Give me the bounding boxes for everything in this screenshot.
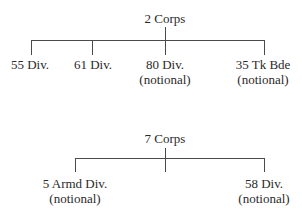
child-node-61-div: 61 Div. bbox=[74, 57, 112, 72]
root-node-7-corps: 7 Corps bbox=[145, 131, 186, 146]
node-note: (notional) bbox=[236, 72, 291, 87]
connector-horizontal-bar bbox=[75, 158, 265, 159]
node-label: 58 Div. bbox=[238, 176, 289, 191]
node-label: 35 Tk Bde bbox=[236, 57, 291, 72]
connector-child-2 bbox=[92, 40, 93, 55]
connector-child-2 bbox=[264, 158, 265, 172]
child-node-55-div: 55 Div. bbox=[11, 57, 49, 72]
connector-child-4 bbox=[264, 40, 265, 55]
node-note: (notional) bbox=[238, 191, 289, 206]
connector-child-1 bbox=[31, 40, 32, 55]
node-label: 2 Corps bbox=[145, 11, 186, 26]
node-label: 55 Div. bbox=[11, 57, 49, 72]
root-node-2-corps: 2 Corps bbox=[145, 11, 186, 26]
node-label: 5 Armd Div. bbox=[43, 176, 108, 191]
child-node-80-div: 80 Div. (notional) bbox=[139, 57, 190, 87]
node-label: 80 Div. bbox=[139, 57, 190, 72]
connector-child-1 bbox=[75, 158, 76, 172]
child-node-58-div: 58 Div. (notional) bbox=[238, 176, 289, 206]
connector-root-vertical bbox=[165, 148, 166, 172]
child-node-35-tk-bde: 35 Tk Bde (notional) bbox=[236, 57, 291, 87]
node-label: 7 Corps bbox=[145, 131, 186, 146]
node-note: (notional) bbox=[139, 72, 190, 87]
child-node-5-armd-div: 5 Armd Div. (notional) bbox=[43, 176, 108, 206]
connector-horizontal-bar bbox=[31, 40, 265, 41]
node-note: (notional) bbox=[43, 191, 108, 206]
connector-root-vertical bbox=[165, 27, 166, 55]
node-label: 61 Div. bbox=[74, 57, 112, 72]
